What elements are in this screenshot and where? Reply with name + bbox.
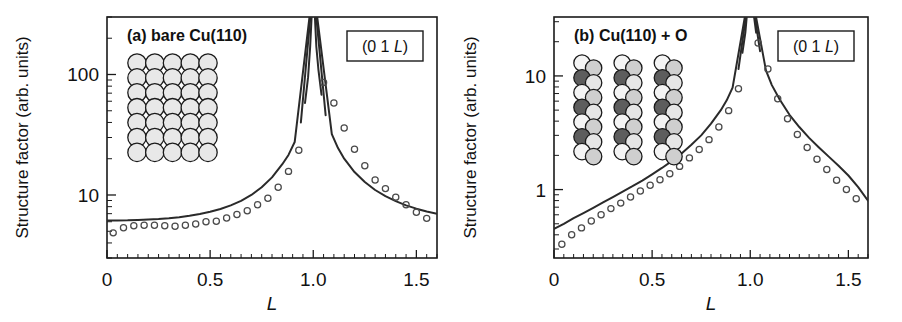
data-point bbox=[647, 182, 653, 188]
data-point bbox=[224, 215, 230, 221]
data-point bbox=[618, 200, 624, 206]
data-point bbox=[285, 168, 291, 174]
x-axis-label-b: L bbox=[706, 293, 717, 314]
data-point bbox=[804, 144, 810, 150]
data-point bbox=[598, 212, 604, 218]
data-point bbox=[254, 202, 260, 208]
data-point bbox=[735, 86, 741, 92]
x-tick-label: 1.5 bbox=[835, 269, 861, 290]
data-point bbox=[814, 156, 820, 162]
inset-atom-cu bbox=[626, 148, 642, 164]
x-tick-label: 1.0 bbox=[737, 269, 763, 290]
figure-canvas: 00.51.01.5L10100Structure factor (arb. u… bbox=[0, 0, 902, 322]
y-axis-label-b: Structure factor (arb. units) bbox=[461, 36, 480, 238]
data-point bbox=[131, 223, 137, 229]
data-point bbox=[424, 215, 430, 221]
data-point bbox=[569, 232, 575, 238]
data-point bbox=[794, 131, 800, 137]
hkl-text: (0 1 L) bbox=[362, 38, 408, 55]
data-point bbox=[853, 196, 859, 202]
inset-cu110-added-row-oxygen-model bbox=[574, 55, 682, 165]
data-point bbox=[162, 223, 168, 229]
data-point bbox=[627, 194, 633, 200]
inset-atom-cu bbox=[181, 143, 199, 161]
data-point bbox=[824, 166, 830, 172]
data-point bbox=[843, 186, 849, 192]
data-point bbox=[213, 218, 219, 224]
data-point bbox=[341, 125, 347, 131]
inset-atom-cu bbox=[199, 143, 217, 161]
x-tick-label: 1.5 bbox=[403, 269, 429, 290]
data-point bbox=[120, 225, 126, 231]
data-point bbox=[265, 195, 271, 201]
data-point bbox=[578, 225, 584, 231]
data-point bbox=[244, 208, 250, 214]
x-tick-label: 0 bbox=[102, 269, 113, 290]
data-point bbox=[608, 206, 614, 212]
hkl-annotation-b: (0 1 L) bbox=[778, 31, 854, 61]
data-point bbox=[559, 241, 565, 247]
data-point bbox=[784, 116, 790, 122]
data-point bbox=[372, 177, 378, 183]
y-tick-label: 1 bbox=[535, 180, 546, 201]
inset-atom-cu bbox=[128, 143, 146, 161]
data-point bbox=[182, 222, 188, 228]
data-point bbox=[382, 186, 388, 192]
data-point bbox=[110, 230, 116, 236]
data-point bbox=[657, 177, 663, 183]
inset-atom-cu bbox=[146, 143, 164, 161]
panel-title-b: (b) Cu(110) + O bbox=[574, 27, 687, 44]
y-axis-ticks-a bbox=[107, 17, 116, 258]
data-point bbox=[151, 222, 157, 228]
data-point bbox=[637, 188, 643, 194]
data-point bbox=[234, 211, 240, 217]
x-tick-label: 0 bbox=[549, 269, 560, 290]
data-point bbox=[351, 146, 357, 152]
data-point bbox=[193, 221, 199, 227]
data-point bbox=[203, 219, 209, 225]
hkl-text: (0 1 L) bbox=[793, 38, 839, 55]
data-point bbox=[141, 222, 147, 228]
x-axis-ticks-a bbox=[107, 250, 437, 258]
inset-atom-cu bbox=[666, 148, 682, 164]
data-point bbox=[696, 146, 702, 152]
y-axis-ticks-b bbox=[554, 22, 563, 249]
inset-atom-cu bbox=[163, 143, 181, 161]
inset-cu110-clean-surface-model bbox=[128, 54, 217, 162]
data-point bbox=[716, 124, 722, 130]
data-point bbox=[834, 177, 840, 183]
data-point bbox=[413, 209, 419, 215]
data-point bbox=[172, 223, 178, 229]
panel-b: 00.51.01.5L110Structure factor (arb. uni… bbox=[461, 0, 868, 314]
data-point bbox=[706, 137, 712, 143]
data-point bbox=[588, 218, 594, 224]
y-tick-label: 10 bbox=[78, 185, 99, 206]
fit-curve bbox=[750, 0, 868, 201]
figure-root: 00.51.01.5L10100Structure factor (arb. u… bbox=[0, 0, 902, 322]
panel-title-a: (a) bare Cu(110) bbox=[127, 27, 247, 44]
x-tick-label: 0.5 bbox=[639, 269, 665, 290]
data-point bbox=[726, 108, 732, 114]
data-point bbox=[331, 100, 337, 106]
data-point bbox=[393, 194, 399, 200]
x-axis-label-a: L bbox=[267, 293, 278, 314]
data-point bbox=[686, 155, 692, 161]
y-tick-label: 100 bbox=[67, 64, 99, 85]
y-tick-label: 10 bbox=[525, 66, 546, 87]
data-point bbox=[275, 184, 281, 190]
x-axis-ticks-b bbox=[554, 250, 868, 258]
hkl-annotation-a: (0 1 L) bbox=[347, 31, 423, 61]
inset-atom-cu bbox=[585, 148, 601, 164]
data-point bbox=[362, 163, 368, 169]
y-axis-label-a: Structure factor (arb. units) bbox=[13, 36, 32, 238]
data-point bbox=[296, 147, 302, 153]
x-tick-label: 1.0 bbox=[300, 269, 326, 290]
data-point bbox=[667, 171, 673, 177]
panel-a: 00.51.01.5L10100Structure factor (arb. u… bbox=[13, 0, 437, 314]
x-tick-label: 0.5 bbox=[197, 269, 223, 290]
